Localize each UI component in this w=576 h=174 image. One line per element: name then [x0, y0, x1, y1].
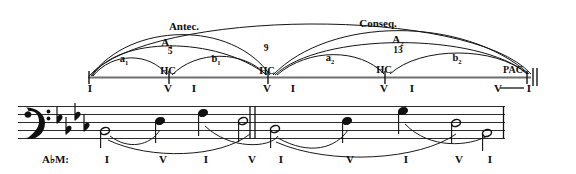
- arc-group-a1: [92, 46, 267, 76]
- diagram-roman-numeral: V: [164, 83, 172, 94]
- diagram-roman-numeral: I: [88, 83, 92, 94]
- figure-root: Antec. Conseq. A1 A2 a1 b1 a2 b2 5 9 13 …: [0, 0, 576, 174]
- diagram-roman-numeral: I: [291, 83, 295, 94]
- staff-lines: [18, 107, 505, 139]
- score-roman-numeral: I: [488, 154, 492, 165]
- bass-clef-icon: [25, 108, 51, 140]
- note-half: [482, 128, 493, 151]
- measure-number-5: 5: [168, 47, 173, 57]
- phrase-structure-diagram: [0, 0, 576, 100]
- note-half: [100, 126, 111, 148]
- key-signature-four-flats: [57, 103, 90, 135]
- note-quarter: [342, 116, 353, 143]
- diagram-roman-numeral: I: [527, 83, 531, 94]
- score-roman-numeral: I: [204, 154, 208, 165]
- cadence-hc-2: HC: [259, 66, 275, 77]
- score-roman-numeral: I: [279, 154, 283, 165]
- score-roman-numeral: V: [455, 154, 463, 165]
- note-quarter: [398, 106, 409, 134]
- label-phrase-a2: a2: [326, 53, 335, 66]
- score-roman-numeral: V: [248, 154, 256, 165]
- label-phrase-a1: a1: [120, 54, 129, 67]
- timeline-double-barline: [533, 68, 537, 86]
- cadence-hc-1: HC: [160, 66, 176, 77]
- cadence-hc-3: HC: [376, 65, 392, 76]
- note-half: [270, 124, 281, 148]
- diagram-roman-numeral: I: [410, 83, 414, 94]
- score-roman-numeral: I: [105, 154, 109, 165]
- diagram-roman-numeral: I: [192, 83, 196, 94]
- diagram-roman-numeral: V: [380, 83, 388, 94]
- label-consequent: Conseq.: [359, 18, 397, 29]
- label-phrase-b2: b2: [452, 53, 461, 66]
- cadence-pac: PAC: [503, 65, 523, 75]
- diagram-roman-numeral: V: [494, 83, 502, 94]
- diagram-roman-numeral: V: [263, 83, 271, 94]
- flat-icon: [66, 117, 72, 135]
- arc-phrase-a1: [93, 58, 167, 76]
- score-roman-numeral: V: [159, 154, 167, 165]
- score-roman-numeral: V: [346, 154, 354, 165]
- score-roman-numeral: I: [404, 154, 408, 165]
- label-phrase-b1: b1: [211, 54, 220, 67]
- notes: [100, 106, 493, 151]
- measure-number-9: 9: [264, 44, 269, 54]
- flat-icon: [75, 103, 81, 121]
- note-quarter: [155, 116, 166, 143]
- measure-number-13: 13: [393, 46, 403, 56]
- label-antecedent: Antec.: [169, 21, 199, 32]
- key-label: A♭M:: [42, 154, 69, 165]
- arc-double-period: [89, 24, 531, 76]
